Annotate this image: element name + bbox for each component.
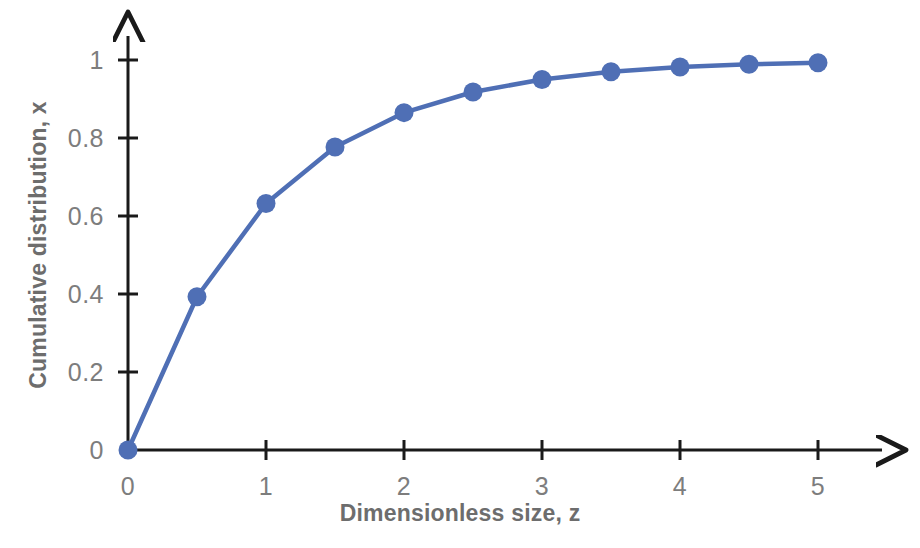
x-axis-tick-label: 1 [259, 472, 273, 501]
y-axis-tick-label: 0.6 [0, 202, 104, 231]
x-axis-title: Dimensionless size, z [340, 500, 581, 527]
y-axis-tick-label: 0.4 [0, 280, 104, 309]
data-point-marker [326, 137, 345, 156]
data-point-marker [188, 287, 207, 306]
y-axis-tick-label: 0 [0, 436, 104, 465]
data-point-marker [740, 55, 759, 74]
x-axis-tick-label: 3 [535, 472, 549, 501]
data-point-marker [395, 103, 414, 122]
y-axis-tick-label: 0.2 [0, 358, 104, 387]
x-axis-tick-label: 2 [397, 472, 411, 501]
axis-group [128, 36, 882, 450]
data-point-marker [602, 62, 621, 81]
y-axis-tick-label: 1 [0, 46, 104, 75]
data-point-marker [809, 53, 828, 72]
y-axis-title: Cumulative distribution, x [25, 101, 52, 389]
y-axis-tick-label: 0.8 [0, 124, 104, 153]
x-axis-tick-label: 0 [121, 472, 135, 501]
data-series-line [128, 63, 818, 450]
data-point-marker [119, 441, 138, 460]
chart-figure: 012345 00.20.40.60.81 Dimensionless size… [0, 0, 920, 548]
data-point-marker [533, 70, 552, 89]
chart-plot-area [0, 0, 920, 548]
data-point-marker [464, 82, 483, 101]
x-axis-tick-label: 5 [811, 472, 825, 501]
x-axis-tick-label: 4 [673, 472, 687, 501]
data-point-marker [257, 194, 276, 213]
data-point-marker [671, 58, 690, 77]
